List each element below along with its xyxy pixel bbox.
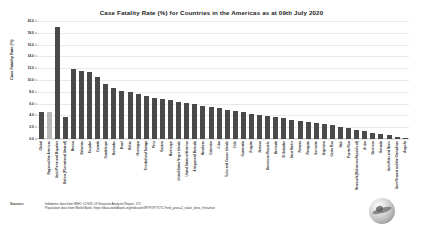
bar-slot — [280, 21, 288, 139]
bar — [192, 104, 197, 139]
x-axis-labels: GlobalRegion of the AmericasSaint Pierre… — [37, 140, 409, 186]
bar — [55, 27, 60, 139]
bar-slot — [264, 21, 272, 139]
x-label-slot: Honduras — [199, 140, 207, 186]
bar — [217, 108, 222, 139]
x-label-slot: Grenada — [377, 140, 385, 186]
bar-slot — [142, 21, 150, 139]
x-axis-tick-label: Bolivia (Plurinational State of) — [63, 141, 67, 184]
bar — [403, 138, 408, 139]
bar — [346, 128, 351, 139]
x-label-slot: Canada — [94, 140, 102, 186]
bar-slot — [353, 21, 361, 139]
x-axis-tick-label: El Salvador — [282, 141, 286, 157]
x-label-slot: Saint Martin — [288, 140, 296, 186]
sources-label: Sources: — [10, 202, 24, 206]
bar — [306, 122, 311, 139]
x-axis-tick-label: Martinique — [169, 141, 173, 156]
bar-slot — [393, 21, 401, 139]
bar — [281, 118, 286, 139]
bar-slot — [231, 21, 239, 139]
bar — [298, 121, 303, 139]
bar-slot — [86, 21, 94, 139]
x-axis-tick-label: Global — [39, 141, 43, 150]
bar — [241, 112, 246, 139]
x-label-slot: Saint Pierre and Miquelon — [53, 140, 61, 186]
bar — [63, 117, 68, 139]
x-axis-tick-label: Panama — [298, 141, 302, 153]
x-label-slot: Costa Rica — [328, 140, 336, 186]
x-label-slot: Turks and Caicos Islands — [223, 140, 231, 186]
x-axis-tick-label: Guyana — [160, 141, 164, 152]
bar-slot — [150, 21, 158, 139]
x-axis-tick-label: Haiti — [339, 141, 343, 148]
bar-slot — [126, 21, 134, 139]
x-axis-tick-label: Saint Pierre and Miquelon — [55, 141, 59, 178]
bar — [378, 134, 383, 139]
bar-slot — [37, 21, 45, 139]
x-axis-tick-label: Region of the Americas — [47, 141, 51, 174]
x-label-slot: Bermuda — [272, 140, 280, 186]
bar — [47, 112, 52, 139]
x-label-slot: Ecuador — [86, 140, 94, 186]
x-axis-tick-label: Puerto Rico — [347, 141, 351, 158]
x-label-slot: Anguilla — [401, 140, 409, 186]
x-label-slot: Suriname — [312, 140, 320, 186]
x-axis-tick-label: Suriname — [314, 141, 318, 155]
x-label-slot: Belize — [126, 140, 134, 186]
bar — [79, 71, 84, 139]
bar — [111, 88, 116, 139]
x-label-slot: Colombia — [207, 140, 215, 186]
x-label-slot: Argentina — [320, 140, 328, 186]
x-label-slot: Venezuela (Bolivarian Republic of) — [353, 140, 361, 186]
bar-slot — [215, 21, 223, 139]
organization-globe-logo-icon — [369, 198, 395, 224]
x-label-slot: Barbados — [110, 140, 118, 186]
x-axis-tick-label: Saint Kitts and Nevis — [387, 141, 391, 171]
x-axis-tick-label: Canada — [96, 141, 100, 152]
bar-slot — [239, 21, 247, 139]
bar-slot — [345, 21, 353, 139]
y-axis-title: Case Fatality Rate (%) — [9, 39, 14, 80]
x-label-slot: Bahamas — [77, 140, 85, 186]
bar — [354, 130, 359, 139]
x-axis-tick-label: Guadeloupe — [104, 141, 108, 158]
x-label-slot: El Salvador — [280, 140, 288, 186]
bar — [273, 117, 278, 139]
x-axis-tick-label: Aruba — [363, 141, 367, 150]
x-label-slot: Haiti — [336, 140, 344, 186]
bar-slot — [401, 21, 409, 139]
x-axis-tick-label: Anguilla — [403, 141, 407, 153]
bar — [95, 77, 100, 139]
x-label-slot: Guadeloupe — [102, 140, 110, 186]
x-label-slot: Bolivia (Plurinational State of) — [61, 140, 69, 186]
y-axis-tick-label: 20.0 — [27, 19, 34, 23]
bar-slot — [102, 21, 110, 139]
bar — [71, 69, 76, 139]
bar-slot — [361, 21, 369, 139]
bar — [136, 94, 141, 139]
source-line-who: Infodemic data from WHO COVID-19 Situati… — [45, 202, 141, 206]
bar-slot — [134, 21, 142, 139]
x-axis-tick-label: Trinidad and Tobago — [144, 141, 148, 170]
bar — [249, 114, 254, 139]
x-label-slot: Dominican Republic — [264, 140, 272, 186]
x-label-slot: Saint Kitts and Nevis — [385, 140, 393, 186]
x-axis-tick-label: Guatemala — [241, 141, 245, 156]
x-axis-tick-label: Costa Rica — [330, 141, 334, 157]
x-label-slot: Puerto Rico — [345, 140, 353, 186]
x-label-slot: Aruba — [361, 140, 369, 186]
x-axis-tick-label: Bermuda — [274, 141, 278, 154]
x-axis-tick-label: Jamaica — [258, 141, 262, 153]
x-label-slot: Global — [37, 140, 45, 186]
bar — [322, 124, 327, 139]
y-axis-tick-label: 0.0 — [29, 137, 34, 141]
bar-slot — [175, 21, 183, 139]
x-axis-tick-label: Dominican Republic — [266, 141, 270, 170]
x-label-slot: Dominica — [369, 140, 377, 186]
x-label-slot: Martinique — [167, 140, 175, 186]
chart-page: Case Fatality Rate (%) for Countries in … — [0, 0, 423, 230]
x-label-slot: Mexico — [69, 140, 77, 186]
bar-slot — [207, 21, 215, 139]
bar-slot — [304, 21, 312, 139]
